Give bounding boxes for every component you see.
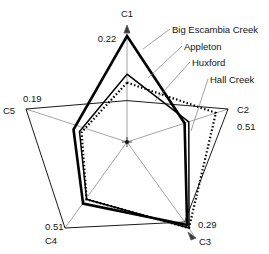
leader-big-escambia-creek <box>143 29 170 49</box>
leader-hall-creek <box>191 79 208 131</box>
leader-huxford <box>155 62 190 101</box>
axis-label-c3: C3 <box>199 236 211 247</box>
legend: Big Escambia Creek Appleton Huxford Hall… <box>172 24 258 85</box>
legend-item-appleton: Appleton <box>184 41 222 52</box>
axis-label-c1: C1 <box>121 8 133 19</box>
axis-value-c4: 0.51 <box>45 221 64 232</box>
axis-value-c2: 0.51 <box>237 121 256 132</box>
spoke-c4 <box>65 142 127 228</box>
axis-value-c1: 0.22 <box>98 33 117 44</box>
axis-label-c4: C4 <box>45 235 57 246</box>
legend-item-huxford: Huxford <box>192 57 225 68</box>
axis-value-c3: 0.29 <box>198 219 217 230</box>
axis-label-c2: C2 <box>237 104 249 115</box>
axis-value-c5: 0.19 <box>23 93 42 104</box>
arrowhead-c1-icon <box>124 25 130 33</box>
leader-appleton <box>148 46 182 78</box>
radar-chart-svg: C1 0.22 C2 0.51 C3 0.29 C4 0.51 C5 0.19 … <box>0 0 269 254</box>
axis-label-c5: C5 <box>3 105 15 116</box>
legend-item-hall-creek: Hall Creek <box>210 74 255 85</box>
legend-item-big-escambia-creek: Big Escambia Creek <box>172 24 258 35</box>
radar-chart: C1 0.22 C2 0.51 C3 0.29 C4 0.51 C5 0.19 … <box>0 0 269 254</box>
center-marker-icon <box>122 137 132 147</box>
